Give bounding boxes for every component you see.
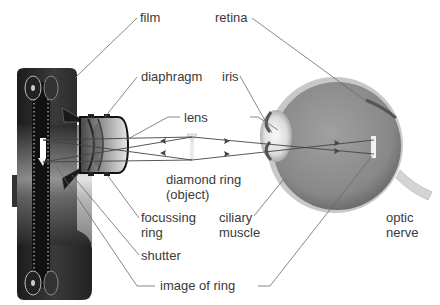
diagram-artwork [0,0,440,305]
label-optic-nerve: optic [386,210,413,225]
label-lens: lens [184,110,208,125]
label-ciliary-muscle-2: muscle [219,225,260,240]
label-retina: retina [215,10,248,25]
label-iris: iris [222,69,239,84]
camera [12,68,128,300]
label-focussing-ring: focussing [141,210,196,225]
label-ciliary-muscle: ciliary [219,210,252,225]
label-diamond-ring-object: (object) [166,187,209,202]
label-optic-nerve-2: nerve [386,225,419,240]
label-diaphragm: diaphragm [141,69,202,84]
label-shutter: shutter [141,248,181,263]
label-focussing-ring-2: ring [141,225,163,240]
camera-eye-diagram: film diaphragm lens diamond ring (object… [0,0,440,305]
eye [260,77,432,213]
label-film: film [140,10,160,25]
label-diamond-ring: diamond ring [166,172,241,187]
label-image-of-ring: image of ring [160,278,235,293]
